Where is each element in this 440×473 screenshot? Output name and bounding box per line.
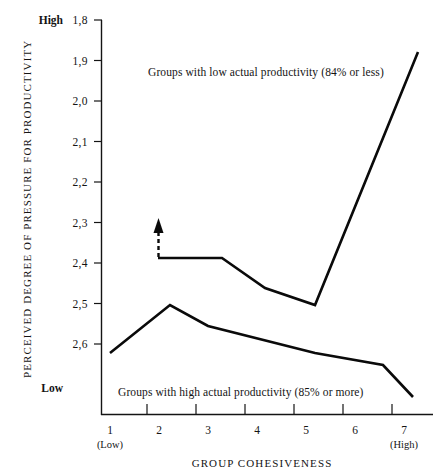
- y-axis-low-label: Low: [41, 382, 63, 394]
- x-tick-label-5: 5: [303, 424, 309, 436]
- x-tick-label-2: 2: [156, 424, 162, 436]
- x-tick-label-7: 7: [401, 424, 407, 436]
- x-tick-label-3: 3: [205, 424, 211, 436]
- y-tick-label-2: 1,9: [72, 55, 88, 68]
- y-axis-high-label: High: [39, 14, 64, 27]
- y-tick-label-3: 2,0: [72, 95, 88, 108]
- x-tick-label-1: 1: [107, 424, 113, 436]
- y-axis-title: PERCEIVED DEGREE OF PRESSURE FOR PRODUCT…: [21, 40, 33, 378]
- y-tick-label-7: 2,4: [72, 257, 88, 270]
- x-axis-low-label: (Low): [97, 439, 124, 451]
- y-tick-label-8: 2,5: [72, 298, 88, 311]
- x-axis-high-label: (High): [390, 439, 418, 451]
- x-tick-label-4: 4: [254, 424, 260, 436]
- y-tick-label-1: 1,8: [72, 14, 88, 27]
- y-tick-label-4: 2,1: [72, 136, 88, 149]
- annotation-high-productivity: Groups with high actual productivity (85…: [118, 386, 364, 399]
- y-tick-label-6: 2,3: [72, 217, 88, 230]
- x-tick-label-6: 6: [352, 424, 358, 436]
- chart-figure: 1,8 1,9 2,0 2,1 2,2 2,3 2,4 2,5 2,6 High…: [0, 0, 440, 473]
- chart-svg: 1,8 1,9 2,0 2,1 2,2 2,3 2,4 2,5 2,6 High…: [0, 0, 440, 473]
- annotation-low-productivity: Groups with low actual productivity (84%…: [148, 66, 384, 79]
- y-tick-label-9: 2,6: [72, 338, 88, 351]
- x-axis-title: GROUP COHESIVENESS: [192, 457, 333, 469]
- y-tick-label-5: 2,2: [72, 176, 88, 189]
